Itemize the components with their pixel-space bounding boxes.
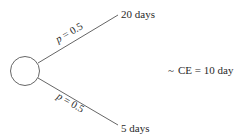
probability-label-lower: p = 0.5 bbox=[54, 90, 86, 115]
outcome-lower: 5 days bbox=[121, 122, 149, 134]
lottery-diagram: p = 0.5 p = 0.5 20 days 5 days ~ CE = 10… bbox=[0, 0, 245, 136]
outcome-upper: 20 days bbox=[121, 8, 155, 20]
ce-tilde: ~ bbox=[168, 64, 174, 76]
certainty-equivalent-label: CE = 10 day bbox=[178, 64, 234, 76]
chance-node bbox=[11, 57, 40, 86]
probability-label-upper: p = 0.5 bbox=[53, 20, 85, 45]
